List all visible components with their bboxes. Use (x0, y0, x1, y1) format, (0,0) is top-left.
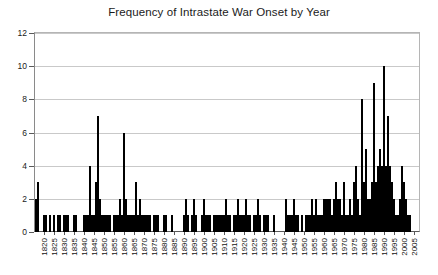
x-tick-mark (64, 232, 65, 235)
x-tick-label: 1845 (90, 238, 99, 256)
x-tick-mark (144, 232, 145, 235)
x-tick-label: 1930 (260, 238, 269, 256)
x-tick-label: 1995 (390, 238, 399, 256)
bar (259, 215, 261, 232)
x-tick-mark (404, 232, 405, 235)
bar (229, 215, 231, 232)
x-tick-mark (354, 232, 355, 235)
x-tick-mark (44, 232, 45, 235)
x-tick-mark (364, 232, 365, 235)
y-tick-mark (29, 232, 34, 233)
x-tick-label: 1985 (370, 238, 379, 256)
bar-series (35, 33, 419, 232)
x-tick-label: 1830 (60, 238, 69, 256)
x-tick-label: 2000 (400, 238, 409, 256)
x-tick-label: 1865 (130, 238, 139, 256)
x-tick-label: 1975 (350, 238, 359, 256)
x-tick-mark (264, 232, 265, 235)
bar (209, 215, 211, 232)
x-tick-label: 1885 (170, 238, 179, 256)
x-tick-mark (124, 232, 125, 235)
x-tick-mark (284, 232, 285, 235)
y-tick-label: 12 (18, 28, 27, 38)
x-tick-mark (314, 232, 315, 235)
x-tick-mark (194, 232, 195, 235)
bar (409, 215, 411, 232)
x-tick-mark (334, 232, 335, 235)
x-tick-mark (294, 232, 295, 235)
y-tick-label: 8 (22, 94, 27, 104)
x-tick-label: 1850 (100, 238, 109, 256)
x-tick-label: 1945 (290, 238, 299, 256)
y-tick-label: 2 (22, 194, 27, 204)
x-tick-mark (94, 232, 95, 235)
bar (195, 215, 197, 232)
bar (171, 215, 173, 232)
x-tick-label: 1875 (150, 238, 159, 256)
bar (149, 215, 151, 232)
x-tick-mark (104, 232, 105, 235)
bar (157, 215, 159, 232)
y-axis: 024681012 (0, 32, 34, 233)
x-tick-label: 1920 (240, 238, 249, 256)
x-tick-mark (214, 232, 215, 235)
x-tick-label: 1960 (320, 238, 329, 256)
bar (187, 215, 189, 232)
x-tick-label: 1880 (160, 238, 169, 256)
x-tick-mark (384, 232, 385, 235)
x-tick-label: 1905 (210, 238, 219, 256)
x-tick-label: 1915 (230, 238, 239, 256)
x-tick-label: 1825 (50, 238, 59, 256)
x-tick-label: 1890 (180, 238, 189, 256)
x-tick-label: 1950 (300, 238, 309, 256)
y-tick-label: 6 (22, 128, 27, 138)
x-tick-label: 1840 (80, 238, 89, 256)
x-tick-mark (164, 232, 165, 235)
x-tick-mark (154, 232, 155, 235)
x-tick-label: 1820 (40, 238, 49, 256)
x-tick-mark (374, 232, 375, 235)
x-tick-label: 1965 (330, 238, 339, 256)
x-tick-mark (394, 232, 395, 235)
x-tick-mark (204, 232, 205, 235)
x-tick-label: 1935 (270, 238, 279, 256)
x-tick-label: 1925 (250, 238, 259, 256)
x-tick-label: 1835 (70, 238, 79, 256)
x-tick-mark (134, 232, 135, 235)
x-tick-label: 1870 (140, 238, 149, 256)
x-tick-label: 1860 (120, 238, 129, 256)
bar (37, 182, 39, 232)
x-tick-mark (174, 232, 175, 235)
chart-container: Frequency of Intrastate War Onset by Yea… (0, 0, 438, 275)
x-tick-label: 1940 (280, 238, 289, 256)
y-tick-label: 0 (22, 227, 27, 237)
chart-title: Frequency of Intrastate War Onset by Yea… (0, 6, 438, 18)
x-tick-mark (234, 232, 235, 235)
x-tick-mark (54, 232, 55, 235)
bar (45, 215, 47, 232)
x-tick-label: 1895 (190, 238, 199, 256)
x-tick-mark (254, 232, 255, 235)
x-tick-mark (414, 232, 415, 235)
x-tick-label: 1955 (310, 238, 319, 256)
y-tick-label: 4 (22, 161, 27, 171)
x-tick-mark (74, 232, 75, 235)
x-tick-mark (274, 232, 275, 235)
x-tick-label: 1855 (110, 238, 119, 256)
x-tick-label: 1980 (360, 238, 369, 256)
x-tick-label: 2005 (410, 238, 419, 256)
x-tick-label: 1900 (200, 238, 209, 256)
x-tick-label: 1970 (340, 238, 349, 256)
bar (301, 215, 303, 232)
bar (59, 215, 61, 232)
x-tick-mark (114, 232, 115, 235)
y-tick-label: 10 (18, 61, 27, 71)
x-tick-mark (244, 232, 245, 235)
bar (267, 215, 269, 232)
bar (49, 215, 51, 232)
bar (297, 215, 299, 232)
bar (67, 215, 69, 232)
bar (165, 215, 167, 232)
x-tick-mark (84, 232, 85, 235)
bar (273, 215, 275, 232)
